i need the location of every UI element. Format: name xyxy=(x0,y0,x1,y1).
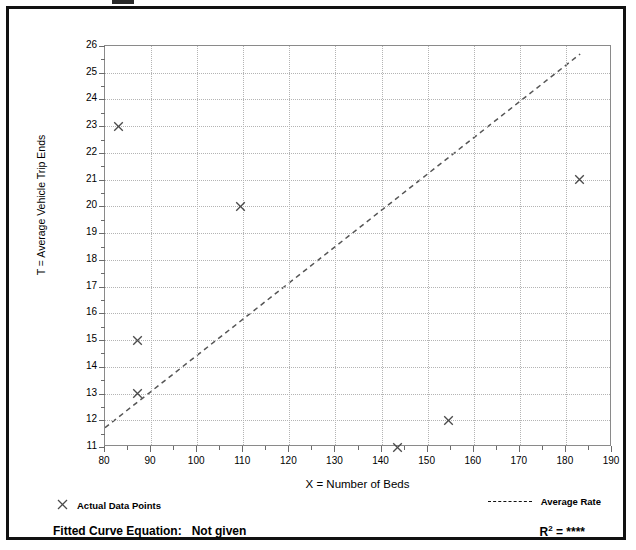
dashed-line-icon xyxy=(488,501,532,502)
x-tick-mark xyxy=(611,446,612,452)
x-tick-label: 80 xyxy=(98,456,109,466)
x-tick-label: 170 xyxy=(510,456,527,466)
y-tick-label: 24 xyxy=(86,93,97,103)
x-tick-mark xyxy=(288,446,289,452)
y-tick-label: 22 xyxy=(86,147,97,157)
y-tick-mark xyxy=(99,99,105,100)
legend-label-average-rate: Average Rate xyxy=(541,496,601,507)
y-tick-mark xyxy=(99,420,105,421)
data-point-marker xyxy=(574,174,585,185)
y-tick-mark xyxy=(99,340,105,341)
y-axis-tick-labels: 11121314151617181920212223242526 xyxy=(64,45,97,446)
x-tick-label: 90 xyxy=(145,456,156,466)
r-squared-label: R xyxy=(539,525,548,539)
x-tick-mark-minor xyxy=(358,446,359,450)
y-tick-label: 21 xyxy=(86,174,97,184)
y-tick-label: 25 xyxy=(86,67,97,77)
y-tick-label: 14 xyxy=(86,361,97,371)
x-tick-label: 120 xyxy=(280,456,297,466)
x-tick-mark xyxy=(196,446,197,452)
average-rate-trendline xyxy=(105,46,610,445)
y-tick-mark-minor xyxy=(101,407,105,408)
fitted-curve-label: Fitted Curve Equation: xyxy=(53,524,182,538)
y-tick-mark xyxy=(99,206,105,207)
plot-area xyxy=(104,45,611,446)
data-point-marker xyxy=(132,388,143,399)
y-tick-label: 26 xyxy=(86,40,97,50)
y-tick-mark xyxy=(99,73,105,74)
data-point-marker xyxy=(132,335,143,346)
y-tick-mark-minor xyxy=(101,327,105,328)
x-tick-mark xyxy=(519,446,520,452)
y-tick-label: 18 xyxy=(86,254,97,264)
data-point-marker xyxy=(113,121,124,132)
x-tick-label: 110 xyxy=(234,456,250,466)
r-squared-equals: = xyxy=(556,525,563,539)
y-tick-mark-minor xyxy=(101,353,105,354)
y-tick-label: 23 xyxy=(86,120,97,130)
x-axis-tick-labels: 8090100110120130140150160170180190 xyxy=(104,456,611,470)
x-tick-label: 160 xyxy=(464,456,481,466)
y-tick-label: 11 xyxy=(87,441,97,451)
r-squared-value: **** xyxy=(566,525,585,539)
x-tick-mark-minor xyxy=(219,446,220,450)
y-tick-label: 12 xyxy=(86,414,97,424)
y-tick-mark-minor xyxy=(101,193,105,194)
x-tick-label: 180 xyxy=(557,456,574,466)
x-tick-mark-minor xyxy=(450,446,451,450)
page-root: T = Average Vehicle Trip Ends 1112131415… xyxy=(0,0,636,550)
x-tick-mark-minor xyxy=(127,446,128,450)
x-tick-mark-minor xyxy=(404,446,405,450)
y-tick-mark xyxy=(99,260,105,261)
x-tick-label: 100 xyxy=(188,456,205,466)
x-tick-mark-minor xyxy=(588,446,589,450)
x-tick-mark xyxy=(334,446,335,452)
x-tick-mark xyxy=(104,446,105,452)
y-tick-mark xyxy=(99,180,105,181)
y-tick-mark-minor xyxy=(101,247,105,248)
x-tick-label: 190 xyxy=(603,456,620,466)
y-tick-mark-minor xyxy=(101,220,105,221)
figure-frame: T = Average Vehicle Trip Ends 1112131415… xyxy=(6,6,626,540)
x-tick-mark-minor xyxy=(496,446,497,450)
equation-row: Fitted Curve Equation: Not given R2 = **… xyxy=(9,524,629,546)
fitted-curve-value: Not given xyxy=(192,524,247,538)
y-tick-mark-minor xyxy=(101,166,105,167)
y-tick-mark-minor xyxy=(101,273,105,274)
y-tick-mark xyxy=(99,233,105,234)
x-axis-ticks xyxy=(104,446,611,454)
y-tick-mark-minor xyxy=(101,113,105,114)
data-point-marker xyxy=(443,415,454,426)
y-tick-mark xyxy=(99,126,105,127)
x-tick-label: 150 xyxy=(418,456,435,466)
r-squared-exponent: 2 xyxy=(548,524,552,533)
x-tick-mark xyxy=(150,446,151,452)
y-tick-mark-minor xyxy=(101,434,105,435)
y-tick-mark-minor xyxy=(101,59,105,60)
y-tick-label: 17 xyxy=(86,281,97,291)
x-tick-mark xyxy=(473,446,474,452)
x-tick-label: 130 xyxy=(326,456,343,466)
x-tick-mark-minor xyxy=(311,446,312,450)
y-tick-mark-minor xyxy=(101,140,105,141)
x-tick-label: 140 xyxy=(372,456,389,466)
x-tick-mark-minor xyxy=(265,446,266,450)
x-tick-mark-minor xyxy=(542,446,543,450)
x-tick-mark xyxy=(565,446,566,452)
y-tick-mark-minor xyxy=(101,300,105,301)
y-tick-label: 19 xyxy=(86,227,97,237)
y-tick-label: 13 xyxy=(86,388,97,398)
x-tick-mark xyxy=(242,446,243,452)
legend-item-average-rate: Average Rate xyxy=(488,496,601,507)
y-tick-mark xyxy=(99,313,105,314)
x-tick-mark-minor xyxy=(173,446,174,450)
x-tick-mark xyxy=(381,446,382,452)
y-axis-title: T = Average Vehicle Trip Ends xyxy=(35,105,47,305)
x-marker-icon xyxy=(57,496,68,514)
chart-legend: Actual Data Points Average Rate xyxy=(9,496,629,516)
y-tick-label: 15 xyxy=(86,334,97,344)
y-tick-mark xyxy=(99,153,105,154)
legend-label-actual-data-points: Actual Data Points xyxy=(77,500,161,511)
y-tick-label: 20 xyxy=(86,200,97,210)
y-tick-mark-minor xyxy=(101,86,105,87)
